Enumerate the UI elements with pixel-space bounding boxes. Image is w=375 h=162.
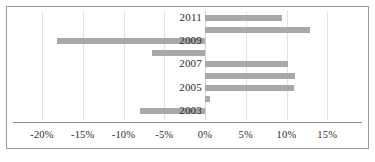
bar-chart-figure: 20112009200720052003-20%-15%-10%-5%0%5%1… <box>0 0 375 162</box>
y-axis-label-2007: 2007 <box>7 58 202 69</box>
bar-row <box>7 27 368 34</box>
y-axis-label-2011: 2011 <box>7 12 202 23</box>
chart-plot-frame: 20112009200720052003-20%-15%-10%-5%0%5%1… <box>6 6 369 149</box>
bar-row <box>7 96 368 103</box>
bar-row <box>7 50 368 57</box>
bar-2008[interactable] <box>152 50 205 56</box>
y-axis-label-2009: 2009 <box>7 35 202 46</box>
y-axis-label-2005: 2005 <box>7 82 202 93</box>
bar-2004[interactable] <box>205 96 210 102</box>
bar-row <box>7 73 368 80</box>
x-axis-tick-15pct: 15% <box>302 129 352 140</box>
bar-2005[interactable] <box>205 85 294 91</box>
x-axis-line <box>13 122 362 123</box>
bar-2011[interactable] <box>205 15 282 21</box>
bar-2010[interactable] <box>205 27 310 33</box>
y-axis-label-2003: 2003 <box>7 105 202 116</box>
bar-2007[interactable] <box>205 61 288 67</box>
chart-plot-area: 20112009200720052003-20%-15%-10%-5%0%5%1… <box>7 7 368 148</box>
bar-2006[interactable] <box>205 73 295 79</box>
